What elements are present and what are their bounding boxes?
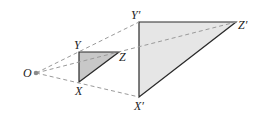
label-o: O bbox=[23, 66, 32, 80]
diagram-svg: O Y X Z Y′ Z′ X′ bbox=[0, 0, 261, 124]
enlargement-diagram: O Y X Z Y′ Z′ X′ bbox=[0, 0, 261, 124]
label-y-prime: Y′ bbox=[131, 8, 141, 22]
large-triangle bbox=[139, 22, 236, 97]
label-z: Z bbox=[119, 50, 126, 64]
label-z-prime: Z′ bbox=[238, 18, 248, 32]
ray-o-to-x-prime bbox=[36, 73, 139, 97]
label-y: Y bbox=[74, 38, 82, 52]
ray-o-to-z-prime bbox=[36, 22, 236, 73]
label-x: X bbox=[74, 84, 83, 98]
label-x-prime: X′ bbox=[133, 99, 144, 113]
center-point-o bbox=[34, 71, 39, 76]
